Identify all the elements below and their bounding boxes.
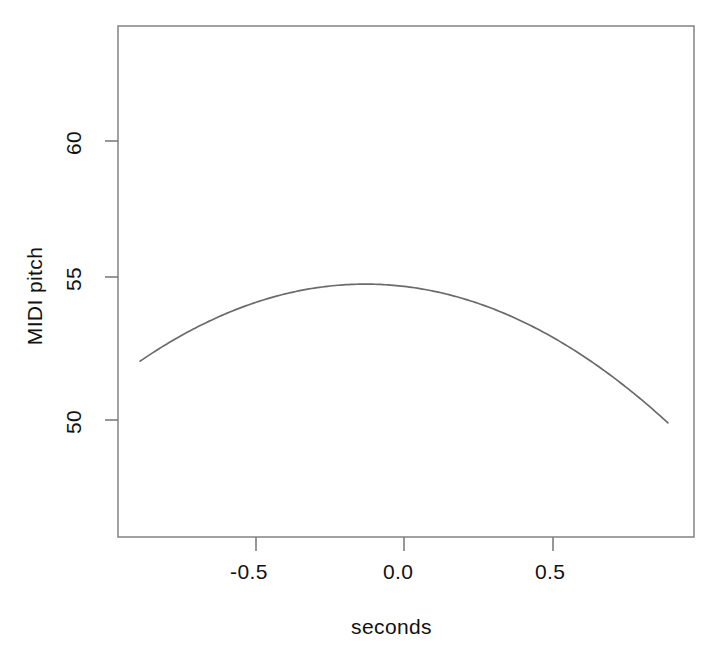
x-axis-title: seconds — [351, 615, 432, 639]
x-axis-ticks — [256, 537, 553, 551]
chart-figure: 60 55 50 -0.5 0.0 0.5 seconds MIDI pitch — [0, 0, 712, 661]
x-tick-label-0-5: 0.5 — [535, 560, 565, 584]
y-tick-label-60: 60 — [62, 131, 86, 155]
x-tick-label-minus-0-5: -0.5 — [230, 560, 268, 584]
y-tick-label-50: 50 — [62, 410, 86, 434]
plot-canvas — [0, 0, 712, 661]
plot-box-frame — [118, 26, 694, 537]
y-axis-title: MIDI pitch — [23, 247, 47, 346]
pitch-contour-curve — [140, 284, 668, 423]
y-tick-label-55: 55 — [62, 267, 86, 291]
y-axis-ticks — [105, 141, 118, 420]
x-tick-label-0-0: 0.0 — [383, 560, 413, 584]
